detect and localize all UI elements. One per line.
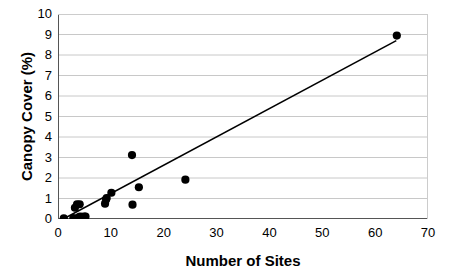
x-tick-label-10: 10: [91, 226, 131, 240]
y-tick-label-10: 10: [6, 7, 52, 20]
data-point-16: [135, 183, 143, 191]
data-point-5: [76, 200, 84, 208]
y-tick-label-4: 4: [6, 130, 52, 143]
y-tick-label-9: 9: [6, 28, 52, 41]
x-tick-label-50: 50: [302, 226, 342, 240]
plot-svg: [58, 14, 428, 219]
x-tick-label-40: 40: [249, 226, 289, 240]
x-tick-label-20: 20: [144, 226, 184, 240]
plot-area: [58, 14, 428, 219]
data-points: [60, 31, 401, 219]
data-point-15: [128, 201, 136, 209]
y-tick-label-0: 0: [6, 212, 52, 225]
x-axis-tick-labels: 010203040506070: [58, 226, 428, 246]
y-tick-label-3: 3: [6, 151, 52, 164]
scatter-chart: Canopy Cover (%) 012345678910 0102030405…: [0, 0, 452, 279]
x-axis-title: Number of Sites: [58, 252, 428, 269]
x-tick-label-60: 60: [355, 226, 395, 240]
data-point-17: [181, 176, 189, 184]
y-tick-label-2: 2: [6, 171, 52, 184]
data-point-14: [128, 151, 136, 159]
y-tick-label-7: 7: [6, 69, 52, 82]
x-tick-label-0: 0: [38, 226, 78, 240]
x-tick-label-30: 30: [197, 226, 237, 240]
y-tick-label-5: 5: [6, 110, 52, 123]
y-axis-tick-labels: 012345678910: [0, 14, 52, 219]
y-tick-label-8: 8: [6, 48, 52, 61]
data-point-18: [393, 31, 401, 39]
y-tick-label-1: 1: [6, 192, 52, 205]
data-point-13: [107, 189, 115, 197]
y-tick-label-6: 6: [6, 89, 52, 102]
gridlines: [58, 14, 428, 199]
data-point-0: [60, 214, 68, 219]
x-tick-label-70: 70: [408, 226, 448, 240]
